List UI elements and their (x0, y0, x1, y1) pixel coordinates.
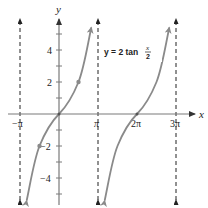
y-tick-neg-4: −4 (40, 173, 51, 184)
point-pi-half-2 (76, 80, 80, 84)
x-tick-pi: π (94, 118, 100, 129)
y-tick-4: 4 (47, 45, 52, 56)
x-tick-neg-pi: −π (12, 118, 23, 129)
equation-frac-den: 2 (146, 53, 150, 60)
tangent-graph: x −π π 2π 3π y 4 2 −2 −4 (0, 0, 208, 208)
x-tick-3pi: 3π (170, 118, 180, 129)
equation-label: y = 2 tan x 2 (102, 40, 162, 62)
point-neg-pi-half-neg-2 (37, 144, 41, 148)
x-axis-label: x (198, 108, 204, 120)
y-tick-2: 2 (47, 77, 52, 88)
x-axis: x −π π 2π 3π (8, 108, 204, 129)
y-axis-label: y (55, 3, 61, 15)
point-origin (58, 113, 61, 116)
equation-lhs: y = 2 tan (104, 47, 138, 57)
point-2pi-0 (136, 113, 139, 116)
y-axis: y 4 2 −2 −4 (40, 3, 62, 205)
